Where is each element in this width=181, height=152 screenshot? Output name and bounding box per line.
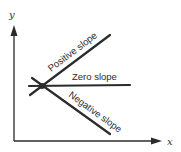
- x-axis-label: x: [167, 136, 173, 147]
- intersection-point: [39, 83, 45, 89]
- x-axis: x: [14, 136, 173, 147]
- slope-diagram: y x Positive slope Zero slope Negative s…: [0, 0, 181, 152]
- y-axis-arrow-icon: [11, 25, 18, 36]
- y-axis: y: [8, 9, 18, 141]
- y-axis-label: y: [8, 9, 15, 20]
- negative-slope-label: Negative slope: [67, 89, 124, 135]
- x-axis-arrow-icon: [151, 138, 162, 145]
- zero-slope-label: Zero slope: [72, 71, 117, 82]
- positive-slope-label: Positive slope: [46, 30, 99, 74]
